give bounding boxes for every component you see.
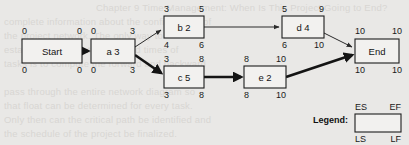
node-e-ef: 10: [276, 54, 286, 64]
node-b-ls: 4: [164, 40, 169, 50]
node-b-ef: 5: [199, 4, 204, 14]
edge-a-b: [135, 30, 161, 47]
legend: Legend: ES EF LS LF: [313, 102, 401, 144]
node-e[interactable]: 8 10 e 2 8 10: [244, 54, 286, 100]
edge-a-c: [135, 55, 161, 73]
node-d-ls: 6: [282, 40, 287, 50]
node-start-es: 0: [22, 26, 27, 36]
node-start-ef: 0: [77, 26, 82, 36]
node-c[interactable]: 3 8 c 5 3 8: [164, 54, 204, 100]
node-start[interactable]: 0 0 Start 0 0: [22, 26, 82, 75]
node-c-ls: 3: [164, 90, 169, 100]
node-start-ls: 0: [22, 65, 27, 75]
pert-network-diagram: Chapter 9 Time Management: When Is This …: [0, 0, 409, 145]
node-d-es: 5: [282, 4, 287, 14]
node-e-lf: 10: [276, 90, 286, 100]
node-a-lf: 3: [130, 65, 135, 75]
node-e-ls: 8: [244, 90, 249, 100]
node-b-es: 3: [164, 4, 169, 14]
node-e-es: 8: [244, 54, 249, 64]
node-a-es: 0: [91, 26, 96, 36]
network-canvas: 0 0 Start 0 0 0 3 a 3 0 3 3 5 b 2 4 6 3: [0, 0, 409, 145]
node-start-label: Start: [42, 46, 62, 57]
node-d-ef: 9: [319, 4, 324, 14]
legend-ls: LS: [355, 134, 366, 144]
edge-e-end: [286, 55, 352, 77]
node-end[interactable]: 10 10 End 10 10: [355, 26, 402, 75]
node-start-lf: 0: [77, 65, 82, 75]
node-end-ef: 10: [392, 26, 402, 36]
node-end-ls: 10: [355, 65, 365, 75]
legend-es: ES: [355, 102, 367, 112]
node-c-es: 3: [164, 54, 169, 64]
node-d[interactable]: 5 9 d 4 6 10: [282, 4, 324, 50]
node-end-label: End: [369, 46, 386, 57]
edge-d-end: [324, 33, 352, 47]
node-b-label: b 2: [177, 22, 190, 33]
node-end-es: 10: [355, 26, 365, 36]
node-c-ef: 8: [199, 54, 204, 64]
node-a[interactable]: 0 3 a 3 0 3: [91, 26, 135, 75]
node-a-ls: 0: [91, 65, 96, 75]
legend-title: Legend:: [313, 115, 348, 125]
legend-box: [355, 114, 401, 132]
node-b-lf: 6: [199, 40, 204, 50]
node-b[interactable]: 3 5 b 2 4 6: [164, 4, 204, 50]
node-e-label: e 2: [258, 72, 271, 83]
legend-ef: EF: [389, 102, 401, 112]
node-d-lf: 10: [314, 40, 324, 50]
node-c-label: c 5: [178, 72, 191, 83]
node-a-ef: 3: [130, 26, 135, 36]
node-d-label: d 4: [296, 22, 309, 33]
legend-lf: LF: [390, 134, 401, 144]
node-a-label: a 3: [106, 46, 119, 57]
node-end-lf: 10: [392, 65, 402, 75]
node-c-lf: 8: [199, 90, 204, 100]
